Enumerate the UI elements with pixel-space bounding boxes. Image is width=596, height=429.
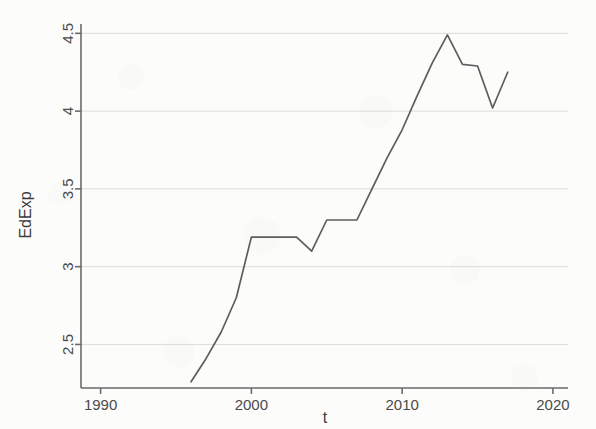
- y-tick-label-4: 4: [60, 107, 77, 115]
- x-tick-label-2000: 2000: [235, 396, 268, 413]
- axes-group: [81, 24, 568, 388]
- x-axis-title: t: [323, 409, 328, 426]
- y-tick-label-3.5: 3.5: [60, 178, 77, 199]
- y-axis-title: EdExp: [17, 191, 34, 238]
- x-tick-label-2020: 2020: [536, 396, 569, 413]
- data-series-edexp: [191, 35, 508, 382]
- y-tick-label-4.5: 4.5: [60, 23, 77, 44]
- line-chart-plot: 2.533.544.5 1990200020102020 EdExp t: [0, 0, 596, 429]
- x-tick-label-1990: 1990: [84, 396, 117, 413]
- x-tick-label-2010: 2010: [385, 396, 418, 413]
- y-tick-label-2.5: 2.5: [60, 334, 77, 355]
- y-axis-ticks-group: 2.533.544.5: [60, 23, 82, 355]
- gridlines-group: [81, 33, 568, 344]
- chart-figure: 2.533.544.5 1990200020102020 EdExp t: [0, 0, 596, 429]
- y-tick-label-3: 3: [60, 262, 77, 270]
